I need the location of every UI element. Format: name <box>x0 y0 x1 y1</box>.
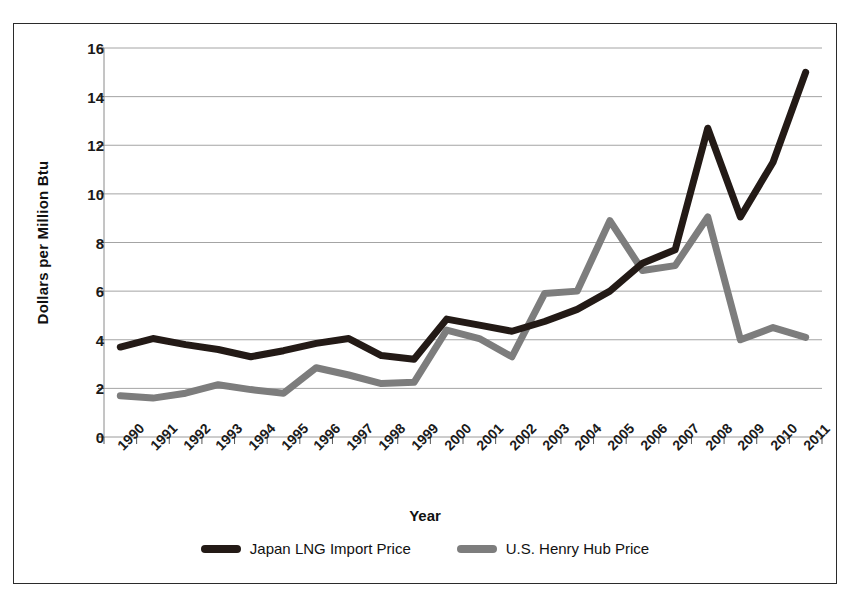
legend-item: Japan LNG Import Price <box>201 540 411 557</box>
x-axis-title: Year <box>14 507 836 524</box>
chart-figure-frame: 0246810121416 19901991199219931994199519… <box>13 23 837 584</box>
x-axis-tick-label: 1993 <box>212 420 245 453</box>
x-axis-tick-label: 2001 <box>473 420 506 453</box>
x-axis-tick-label: 2008 <box>702 420 735 453</box>
x-axis-tick-label: 2002 <box>506 420 539 453</box>
x-axis-tick-label: 2011 <box>800 421 833 454</box>
x-axis-tick-label: 2007 <box>669 420 702 453</box>
x-axis-tick-label: 2010 <box>767 420 800 453</box>
x-axis-tick-label: 1997 <box>343 420 376 453</box>
y-axis-title: Dollars per Million Btu <box>34 153 51 333</box>
x-axis-tick-label: 2009 <box>734 420 767 453</box>
x-axis-tick-label: 1992 <box>180 420 213 453</box>
legend-label: Japan LNG Import Price <box>250 540 411 557</box>
x-axis-tick-label: 2006 <box>637 420 670 453</box>
legend-swatch-icon <box>201 545 241 553</box>
x-axis-tick-label: 1991 <box>147 420 180 453</box>
x-axis-tick-label: 2000 <box>441 420 474 453</box>
x-axis-tick-labels: 1990199119921993199419951996199719981999… <box>14 24 836 583</box>
x-axis-tick-label: 1999 <box>408 420 441 453</box>
legend-item: U.S. Henry Hub Price <box>457 540 649 557</box>
x-axis-tick-label: 1996 <box>310 420 343 453</box>
x-axis-tick-label: 2003 <box>539 420 572 453</box>
x-axis-tick-label: 1995 <box>278 420 311 453</box>
legend-label: U.S. Henry Hub Price <box>506 540 649 557</box>
x-axis-tick-label: 2004 <box>571 420 604 453</box>
x-axis-tick-label: 2005 <box>604 420 637 453</box>
x-axis-tick-label: 1990 <box>114 420 147 453</box>
legend-swatch-icon <box>457 545 497 553</box>
chart-legend: Japan LNG Import PriceU.S. Henry Hub Pri… <box>14 540 836 557</box>
x-axis-tick-label: 1994 <box>245 420 278 453</box>
x-axis-tick-label: 1998 <box>375 420 408 453</box>
